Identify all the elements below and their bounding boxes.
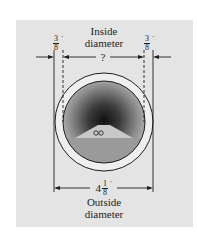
outside-label-line1: Outside [74,197,134,208]
left-wall-dimension-arrow [36,55,54,59]
right-wall-thickness: 3 8 ′ [144,35,150,52]
inside-label-line2: diameter [74,38,134,49]
inside-diameter-unknown: ? [97,52,109,63]
left-wall-thickness: 3 8 ′ [53,35,59,52]
right-wall-dimension-arrow [153,55,171,59]
inside-label-line1: Inside [74,26,134,37]
outside-label-line2: diameter [74,209,134,220]
outside-diameter-whole: 4 [93,183,101,194]
outside-diameter-fraction: 1 8 ′ [102,180,108,197]
